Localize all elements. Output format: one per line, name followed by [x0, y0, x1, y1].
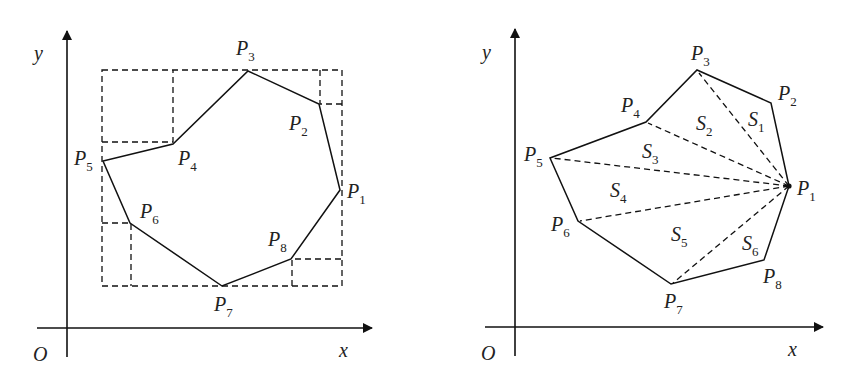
- right-y-label: y: [480, 41, 491, 64]
- left-label-p2: P2: [288, 112, 308, 139]
- left-dashed-rectangles: [102, 70, 342, 286]
- left-figure: O x y P1 P2 P3 P4 P5 P6 P7 P8: [32, 31, 372, 365]
- left-x-label: x: [338, 339, 348, 361]
- right-label-p8: P8: [762, 265, 782, 292]
- left-origin-label: O: [33, 343, 47, 365]
- region-label-s3: S3: [642, 140, 659, 167]
- left-label-p6: P6: [139, 200, 159, 227]
- left-y-label: y: [32, 42, 43, 65]
- right-label-p2: P2: [777, 82, 797, 109]
- diagonal-p1-p5: [552, 158, 789, 186]
- diagonal-p1-p4: [648, 123, 789, 186]
- left-label-p5: P5: [73, 147, 93, 174]
- right-label-p4: P4: [620, 94, 640, 121]
- right-label-p3: P3: [690, 42, 710, 69]
- bounding-rectangle: [102, 70, 342, 286]
- corner-box-p4-p5: [102, 70, 173, 142]
- right-label-p5: P5: [523, 143, 543, 170]
- region-labels: S1 S2 S3 S4 S5 S6: [610, 108, 765, 259]
- p1-point: [786, 183, 791, 188]
- right-label-p7: P7: [663, 290, 683, 317]
- region-label-s1: S1: [748, 108, 765, 135]
- left-label-p4: P4: [177, 147, 197, 174]
- left-label-p3: P3: [235, 37, 255, 64]
- right-figure: O x y P1 P2 P3 P4 P5 P6 P7 P8 S1 S2: [480, 29, 823, 364]
- right-label-p1: P1: [796, 177, 816, 204]
- left-label-p1: P1: [346, 180, 366, 207]
- left-polygon: [103, 71, 340, 286]
- left-vertex-labels: P1 P2 P3 P4 P5 P6 P7 P8: [73, 37, 366, 320]
- left-label-p8: P8: [267, 228, 287, 255]
- left-label-p7: P7: [213, 293, 233, 320]
- diagram-canvas: O x y P1 P2 P3 P4 P5 P6 P7 P8 O: [0, 0, 852, 380]
- right-x-label: x: [787, 338, 797, 360]
- corner-box-p8: [292, 259, 342, 286]
- corner-box-p6: [102, 223, 131, 286]
- region-label-s4: S4: [610, 179, 627, 206]
- corner-box-p2: [320, 70, 342, 104]
- right-origin-label: O: [481, 342, 495, 364]
- diagonal-p1-p3: [699, 73, 789, 186]
- right-label-p6: P6: [550, 213, 570, 240]
- region-label-s6: S6: [742, 232, 759, 259]
- region-label-s2: S2: [696, 112, 713, 139]
- region-label-s5: S5: [671, 223, 688, 250]
- right-vertex-labels: P1 P2 P3 P4 P5 P6 P7 P8: [523, 42, 816, 317]
